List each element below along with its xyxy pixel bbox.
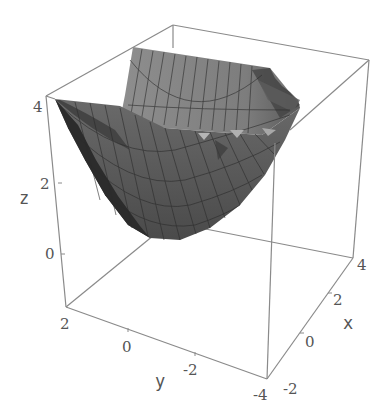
y-tick-2: 2 xyxy=(60,315,70,333)
z-tick-4: 4 xyxy=(33,98,43,116)
x-tick-neg2: -2 xyxy=(283,380,298,398)
x-tick-2: 2 xyxy=(333,291,343,309)
surface-plot: 4 2 0 z 2 0 -2 -4 y -2 0 2 4 x xyxy=(0,0,387,416)
y-tick-neg4: -4 xyxy=(253,386,268,404)
z-axis: 4 2 0 z xyxy=(19,98,55,263)
bounding-box-back xyxy=(66,222,353,307)
z-axis-label: z xyxy=(19,188,29,208)
y-axis: 2 0 -2 -4 y xyxy=(60,315,268,404)
z-tick-2: 2 xyxy=(40,175,50,193)
x-tick-0: 0 xyxy=(305,333,315,351)
y-axis-label: y xyxy=(155,371,165,391)
x-axis-label: x xyxy=(343,313,353,333)
x-axis: -2 0 2 4 x xyxy=(283,256,367,398)
x-tick-4: 4 xyxy=(357,256,367,274)
y-tick-0: 0 xyxy=(122,338,132,356)
z-tick-0: 0 xyxy=(45,245,55,263)
y-tick-neg2: -2 xyxy=(183,361,198,379)
